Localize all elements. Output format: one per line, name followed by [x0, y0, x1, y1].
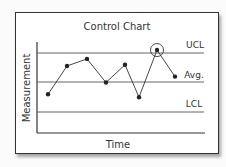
x-axis-label: Time [105, 139, 130, 150]
data-series [46, 44, 177, 100]
data-point [104, 80, 108, 84]
data-point [123, 63, 127, 67]
series-line [48, 50, 175, 97]
ucl-label: UCL [186, 40, 204, 50]
control-chart: Control Chart Measurement Time UCL Avg. … [0, 0, 226, 167]
lcl-label: LCL [186, 99, 202, 109]
chart-title: Control Chart [84, 21, 151, 32]
avg-label: Avg. [184, 70, 204, 80]
y-axis-label: Measurement [21, 54, 32, 123]
data-point [65, 64, 69, 68]
data-point [173, 74, 177, 78]
data-point [155, 48, 159, 52]
data-point [85, 57, 89, 61]
data-point [46, 92, 50, 96]
data-point [137, 95, 141, 99]
